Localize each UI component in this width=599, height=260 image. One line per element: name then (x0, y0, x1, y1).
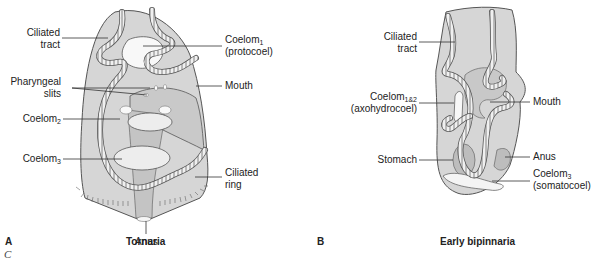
panel-letter-b: B (317, 236, 324, 247)
coelom3 (114, 146, 170, 170)
label-stomach: Stomach (360, 154, 417, 166)
label-mouth-b: Mouth (533, 96, 561, 108)
label-coelom2: Coelom2 (10, 113, 61, 125)
label-text: Coelom (533, 168, 567, 179)
label-coelom12: Coelom1&2 (axohydrocoel) (340, 91, 417, 114)
label-text: Coelom (23, 153, 57, 164)
label-text: tract (370, 43, 417, 55)
label-ciliated-ring: Ciliated ring (225, 167, 258, 190)
label-subscript: 1&2 (405, 96, 417, 103)
label-subscript: 1 (259, 39, 263, 46)
label-text: Pharyngeal (4, 76, 61, 88)
figure-title-a: Tornaria (126, 236, 165, 247)
label-ciliated-tract-b: Ciliated tract (370, 31, 417, 54)
label-text: Ciliated (14, 27, 60, 39)
label-ciliated-tract-a: Ciliated tract (14, 27, 60, 50)
label-note: (somatocoel) (533, 180, 591, 192)
label-anus-b: Anus (533, 151, 556, 163)
label-text: tract (14, 39, 60, 51)
bipinnaria-larva (419, 7, 530, 194)
label-text: slits (4, 88, 61, 100)
label-coelom3-a: Coelom3 (10, 153, 61, 165)
label-note: (protocoel) (225, 46, 273, 58)
label-subscript: 3 (567, 173, 571, 180)
label-text: Coelom (23, 113, 57, 124)
panel-letter-a: A (5, 236, 12, 247)
label-text: Ciliated (370, 31, 417, 43)
label-text: Coelom (370, 91, 404, 102)
coelom2 (128, 113, 172, 131)
label-text: Coelom (225, 34, 259, 45)
label-pharyngeal-slits: Pharyngeal slits (4, 76, 61, 99)
label-subscript: 3 (57, 158, 61, 165)
label-text: Ciliated (225, 167, 258, 179)
tornaria-larva (62, 10, 222, 234)
figure-title-b: Early bipinnaria (440, 236, 515, 247)
label-mouth-a: Mouth (225, 80, 253, 92)
label-note: (axohydrocoel) (340, 103, 417, 115)
label-subscript: 2 (57, 118, 61, 125)
label-coelom3-b: Coelom3 (somatocoel) (533, 168, 591, 191)
label-coelom1: Coelom1 (protocoel) (225, 34, 273, 57)
caption-fragment: C (4, 248, 11, 260)
label-text: ring (225, 179, 258, 191)
